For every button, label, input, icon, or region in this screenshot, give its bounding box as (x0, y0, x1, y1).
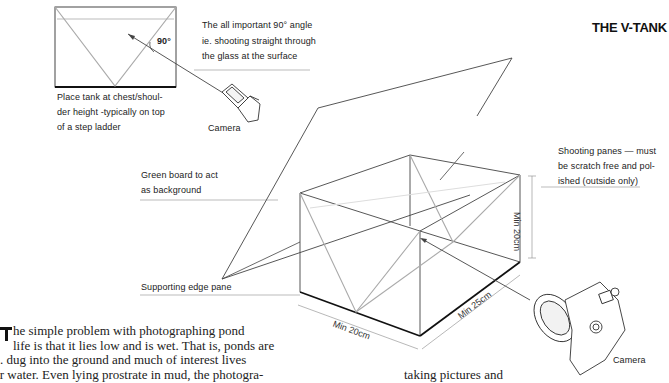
large-camera-icon (525, 282, 625, 375)
angle-note: The all important 90° angle ie. shooting… (202, 18, 316, 65)
body-text: he simple problem with photographing pon… (0, 324, 374, 382)
camera-label-small: Camera (208, 121, 241, 136)
green-board-note: Green board to act as background (141, 168, 218, 198)
page-title: THE V-TANK (592, 20, 667, 35)
camera-label-large: Camera (613, 353, 646, 368)
supporting-edge-note: Supporting edge pane (141, 280, 232, 295)
tank-box (300, 155, 520, 336)
small-camera-icon (222, 84, 260, 122)
shooting-panes-note: Shooting panes — must be scratch free an… (558, 144, 656, 189)
body-text-right-column: taking pictures and (404, 367, 503, 383)
placement-note: Place tank at chest/shoul- der height -t… (57, 90, 165, 135)
dimension-height: Min 20cm (512, 212, 522, 251)
angle-mark: 90° (157, 34, 171, 49)
